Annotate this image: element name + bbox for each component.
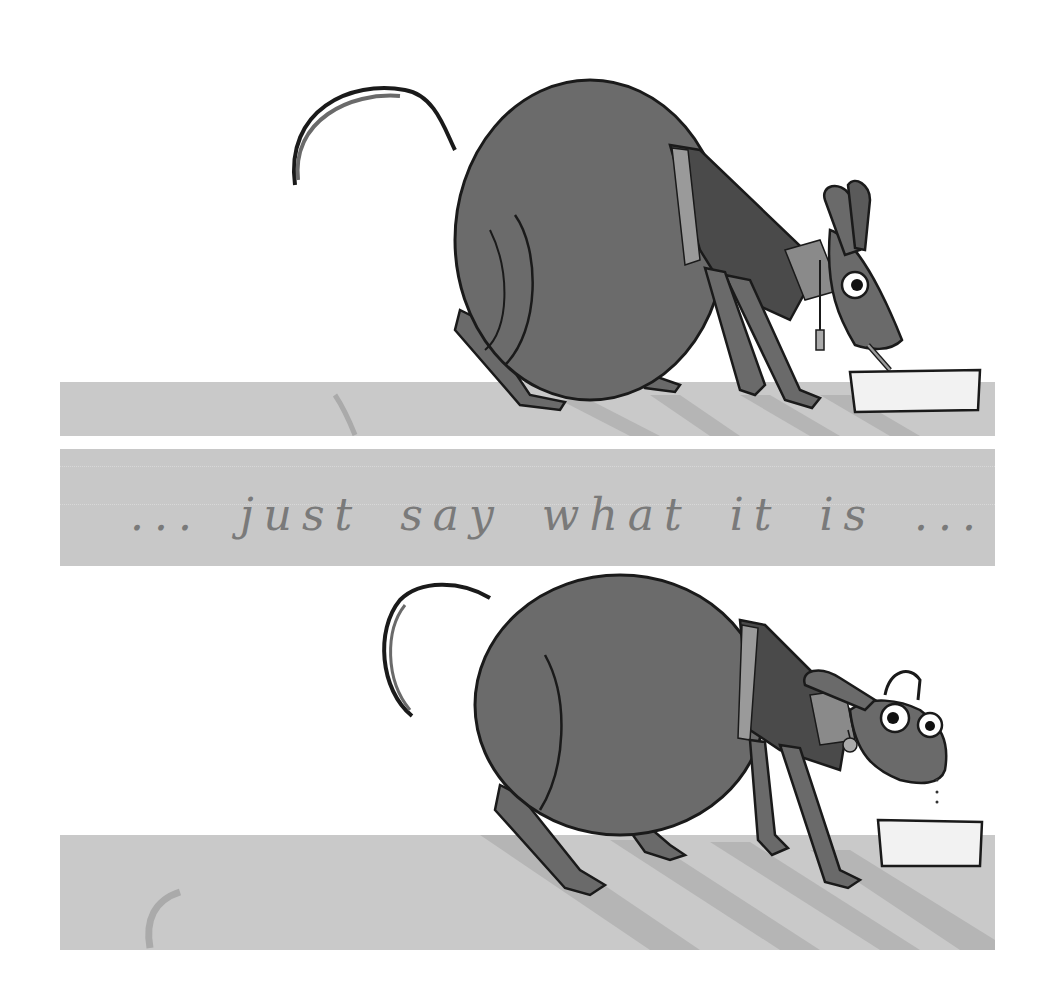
caption-text: ... just say what it is ...: [130, 489, 986, 540]
top-panel: [60, 0, 995, 440]
dog-illustration-top: [60, 0, 995, 440]
caption-line: [60, 466, 995, 467]
caption-band: ... just say what it is ...: [60, 449, 995, 566]
dog-illustration-bottom: [60, 570, 995, 960]
bottom-panel: [60, 570, 995, 960]
